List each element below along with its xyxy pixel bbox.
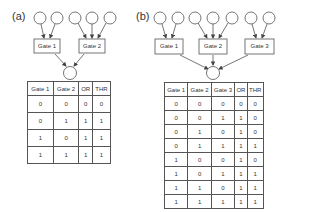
table-cell: 1	[211, 195, 234, 209]
table-header-row: Gate 1 Gate 2 OR THR	[28, 82, 111, 96]
table-cell: 1	[165, 195, 188, 209]
table-cell: 1	[247, 181, 263, 195]
table-row: 0 1 0 1 0	[165, 125, 264, 139]
column-header: OR	[235, 83, 247, 97]
column-header: OR	[79, 82, 93, 96]
panel-a-input-nodes	[34, 12, 116, 24]
table-cell: 1	[92, 130, 110, 147]
table-cell: 1	[211, 111, 234, 125]
panel-b-gate-2: Gate 2	[199, 39, 227, 54]
table-cell: 1	[28, 130, 54, 147]
panel-b-output-node	[207, 67, 220, 80]
table-cell: 1	[79, 130, 93, 147]
table-cell: 1	[165, 181, 188, 195]
table-cell: 1	[188, 139, 211, 153]
column-header: Gate 1	[165, 83, 188, 97]
panel-b-truth-table: Gate 1 Gate 2 Gate 3 OR THR 0 0 0 0 0 0 …	[164, 82, 264, 209]
panel-b-gate-1: Gate 1	[155, 39, 183, 54]
table-cell: 0	[28, 96, 54, 113]
column-header: Gate 1	[28, 82, 54, 96]
column-header: Gate 3	[211, 83, 234, 97]
table-cell: 0	[79, 96, 93, 113]
table-row: 1 1 1 1 1	[165, 195, 264, 209]
table-cell: 1	[235, 125, 247, 139]
table-header-row: Gate 1 Gate 2 Gate 3 OR THR	[165, 83, 264, 97]
table-cell: 0	[188, 153, 211, 167]
table-row: 0 1 1 1 1	[165, 139, 264, 153]
table-cell: 0	[247, 97, 263, 111]
table-cell: 1	[92, 147, 110, 164]
table-cell: 0	[53, 130, 79, 147]
panel-a-gate-1: Gate 1	[34, 39, 60, 53]
table-row: 0 0 1 1 0	[165, 111, 264, 125]
table-cell: 0	[92, 96, 110, 113]
table-cell: 0	[53, 96, 79, 113]
table-row: 0 0 0 0 0	[165, 97, 264, 111]
panel-a-truth-table: Gate 1 Gate 2 OR THR 0 0 0 0 0 1 1 1 1 0…	[27, 81, 111, 164]
table-row: 1 0 1 1	[28, 130, 111, 147]
table-cell: 0	[247, 111, 263, 125]
table-cell: 1	[247, 139, 263, 153]
table-cell: 1	[211, 167, 234, 181]
table-cell: 1	[235, 139, 247, 153]
table-cell: 1	[235, 195, 247, 209]
table-row: 0 0 0 0	[28, 96, 111, 113]
table-cell: 1	[92, 113, 110, 130]
table-cell: 0	[188, 167, 211, 181]
table-cell: 0	[247, 153, 263, 167]
table-cell: 1	[165, 167, 188, 181]
table-cell: 1	[235, 153, 247, 167]
column-header: Gate 2	[188, 83, 211, 97]
table-row: 0 1 1 1	[28, 113, 111, 130]
table-cell: 0	[28, 113, 54, 130]
table-cell: 1	[235, 111, 247, 125]
table-cell: 0	[188, 97, 211, 111]
table-cell: 1	[165, 153, 188, 167]
panel-a-gate-2: Gate 2	[79, 39, 105, 53]
table-cell: 0	[211, 181, 234, 195]
table-row: 1 1 1 1	[28, 147, 111, 164]
table-cell: 0	[165, 139, 188, 153]
table-cell: 0	[165, 125, 188, 139]
table-row: 1 0 1 1 1	[165, 167, 264, 181]
table-cell: 1	[247, 195, 263, 209]
table-cell: 1	[235, 167, 247, 181]
table-cell: 1	[188, 195, 211, 209]
panel-b-input-nodes	[154, 12, 275, 24]
table-cell: 0	[165, 97, 188, 111]
table-cell: 0	[235, 97, 247, 111]
panel-b-gate-3: Gate 3	[245, 39, 274, 54]
table-cell: 1	[28, 147, 54, 164]
table-cell: 0	[211, 153, 234, 167]
table-cell: 1	[53, 113, 79, 130]
column-header: THR	[247, 83, 263, 97]
table-cell: 0	[211, 125, 234, 139]
table-cell: 0	[211, 97, 234, 111]
column-header: Gate 2	[53, 82, 79, 96]
column-header: THR	[92, 82, 110, 96]
table-cell: 1	[79, 147, 93, 164]
table-cell: 1	[211, 139, 234, 153]
table-cell: 0	[247, 125, 263, 139]
panel-a-output-node	[64, 67, 77, 80]
table-cell: 1	[247, 167, 263, 181]
table-cell: 1	[235, 181, 247, 195]
table-cell: 1	[53, 147, 79, 164]
table-row: 1 0 0 1 0	[165, 153, 264, 167]
table-cell: 0	[165, 111, 188, 125]
table-cell: 1	[79, 113, 93, 130]
table-cell: 1	[188, 125, 211, 139]
table-row: 1 1 0 1 1	[165, 181, 264, 195]
table-cell: 1	[188, 181, 211, 195]
table-cell: 0	[188, 111, 211, 125]
